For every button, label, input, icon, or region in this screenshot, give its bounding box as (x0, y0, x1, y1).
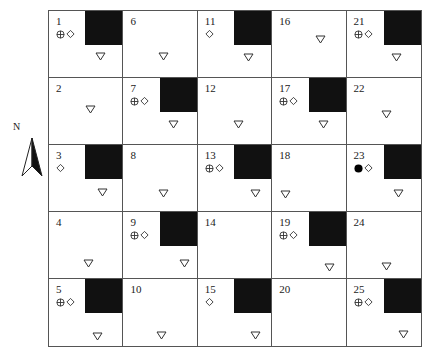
plot-number: 7 (130, 82, 136, 94)
triangle-down-icon (243, 48, 254, 66)
triangle-down-icon (280, 185, 291, 203)
plot-cell-6: 6 (123, 11, 197, 78)
black-block (85, 145, 122, 179)
crosshair-circle-icon (279, 231, 288, 240)
triangle-down-icon (83, 254, 94, 272)
crosshair-circle-icon (56, 298, 65, 307)
black-block (309, 212, 346, 246)
plot-cell-20: 20 (272, 279, 346, 346)
black-block (384, 145, 421, 179)
diamond-icon (66, 29, 75, 39)
plot-cell-1: 1 (49, 11, 123, 78)
diamond-icon (364, 163, 373, 173)
plot-number: 16 (279, 15, 290, 27)
diamond-icon (364, 297, 373, 307)
symbol-group (56, 297, 75, 307)
crosshair-circle-icon (56, 30, 65, 39)
diamond-icon (364, 29, 373, 39)
black-block (309, 78, 346, 112)
triangle-down-icon (318, 115, 329, 133)
diamond-icon (140, 96, 149, 106)
filled-circle-icon (354, 164, 363, 173)
plot-cell-21: 21 (347, 11, 421, 78)
triangle-down-icon (179, 254, 190, 272)
diamond-icon (205, 29, 214, 39)
plot-cell-15: 15 (198, 279, 272, 346)
triangle-down-icon (233, 115, 244, 133)
black-block (160, 78, 197, 112)
black-block (160, 212, 197, 246)
triangle-down-icon (391, 48, 402, 66)
triangle-down-icon (97, 183, 108, 201)
plot-number: 15 (205, 283, 216, 295)
plot-cell-5: 5 (49, 279, 123, 346)
plot-number: 18 (279, 149, 290, 161)
plot-number: 25 (354, 283, 365, 295)
plot-number: 12 (205, 82, 216, 94)
plot-number: 9 (130, 216, 136, 228)
symbol-group (205, 163, 224, 173)
symbol-group (205, 29, 214, 39)
crosshair-circle-icon (354, 298, 363, 307)
plot-cell-4: 4 (49, 212, 123, 279)
plot-number: 5 (56, 283, 62, 295)
black-block (85, 279, 122, 313)
triangle-down-icon (324, 258, 335, 276)
crosshair-circle-icon (205, 164, 214, 173)
diamond-icon (289, 230, 298, 240)
plot-cell-23: 23 (347, 145, 421, 212)
plot-cell-10: 10 (123, 279, 197, 346)
crosshair-circle-icon (279, 97, 288, 106)
black-block (234, 279, 271, 313)
plot-number: 23 (354, 149, 365, 161)
plot-cell-24: 24 (347, 212, 421, 279)
plot-cell-16: 16 (272, 11, 346, 78)
triangle-down-icon (158, 47, 169, 65)
plot-number: 13 (205, 149, 216, 161)
symbol-group (56, 29, 75, 39)
triangle-down-icon (398, 325, 409, 343)
triangle-down-icon (92, 327, 103, 345)
plot-number: 3 (56, 149, 62, 161)
black-block (85, 11, 122, 45)
triangle-down-icon (168, 115, 179, 133)
triangle-down-icon (393, 184, 404, 202)
plot-cell-9: 9 (123, 212, 197, 279)
plot-cell-3: 3 (49, 145, 123, 212)
plot-cell-18: 18 (272, 145, 346, 212)
plot-number: 14 (205, 216, 216, 228)
plot-cell-22: 22 (347, 78, 421, 145)
triangle-down-icon (156, 326, 167, 344)
crosshair-circle-icon (130, 97, 139, 106)
plot-number: 20 (279, 283, 290, 295)
plot-number: 4 (56, 216, 62, 228)
symbol-group (130, 230, 149, 240)
symbol-group (354, 163, 373, 173)
plot-cell-25: 25 (347, 279, 421, 346)
north-arrow-icon (20, 138, 44, 178)
plot-cell-12: 12 (198, 78, 272, 145)
triangle-down-icon (381, 257, 392, 275)
diamond-icon (215, 163, 224, 173)
symbol-group (354, 297, 373, 307)
symbol-group (354, 29, 373, 39)
plot-number: 22 (354, 82, 365, 94)
north-label: N (13, 121, 20, 132)
plot-number: 21 (354, 15, 365, 27)
diamond-icon (66, 297, 75, 307)
plot-cell-17: 17 (272, 78, 346, 145)
diamond-icon (56, 163, 65, 173)
symbol-group (205, 297, 214, 307)
plot-cell-8: 8 (123, 145, 197, 212)
triangle-down-icon (250, 184, 261, 202)
triangle-down-icon (381, 105, 392, 123)
crosshair-circle-icon (354, 30, 363, 39)
black-block (234, 145, 271, 179)
plot-cell-2: 2 (49, 78, 123, 145)
diamond-icon (205, 297, 214, 307)
triangle-down-icon (315, 30, 326, 48)
crosshair-circle-icon (130, 231, 139, 240)
plot-number: 24 (354, 216, 365, 228)
symbol-group (56, 163, 65, 173)
triangle-down-icon (85, 100, 96, 118)
